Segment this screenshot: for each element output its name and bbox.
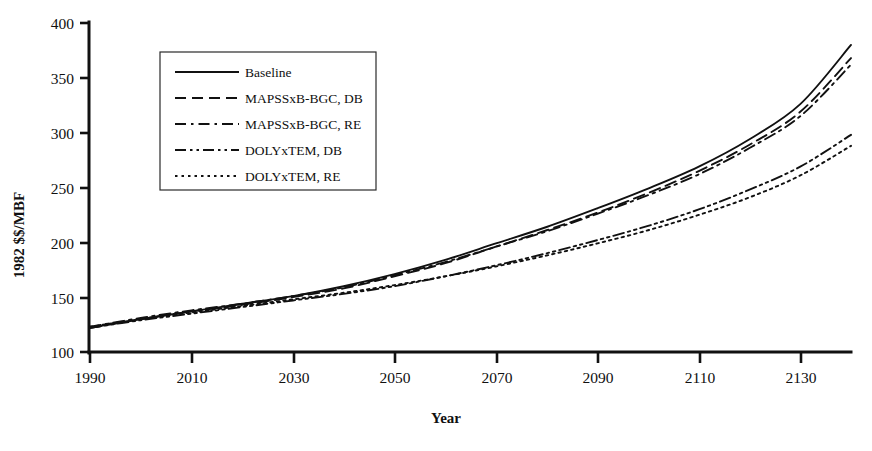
legend-label-2: MAPSSxB-BGC, DB [245,91,363,106]
y-tick-label: 400 [51,15,75,32]
y-tick-label: 300 [51,125,75,142]
x-tick-label: 2010 [177,369,208,386]
chart-background [0,0,872,451]
y-tick-label: 250 [51,180,75,197]
y-tick-label: 350 [51,70,75,87]
legend-label-4: DOLYxTEM, DB [245,143,342,158]
x-tick-label: 2070 [482,369,513,386]
y-tick-label: 150 [51,290,75,307]
legend-label-3: MAPSSxB-BGC, RE [245,117,361,132]
legend-label-5: DOLYxTEM, RE [245,169,340,184]
y-axis-title: 1982 $$/MBF [11,192,27,278]
legend-label-1: Baseline [245,65,292,80]
legend: BaselineMAPSSxB-BGC, DBMAPSSxB-BGC, REDO… [160,52,376,190]
line-chart: 1982 $$/MBF 400 350 300 250 200 150 100 … [0,0,872,451]
x-tick-label: 1990 [75,369,106,386]
x-tick-label: 2090 [583,369,614,386]
x-tick-label: 2110 [685,369,716,386]
y-tick-label: 100 [51,344,75,361]
x-axis-title: Year [431,410,461,426]
x-tick-label: 2050 [380,369,411,386]
x-tick-label: 2130 [786,369,817,386]
y-tick-label: 200 [51,235,75,252]
x-tick-label: 2030 [279,369,310,386]
